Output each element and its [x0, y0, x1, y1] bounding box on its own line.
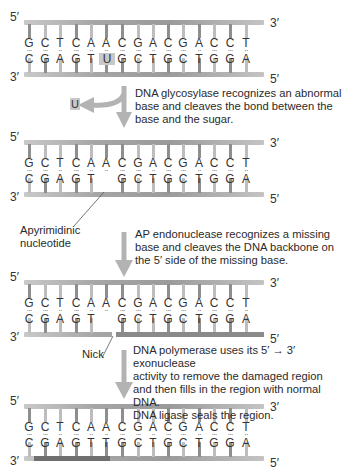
bottom-base: G: [223, 53, 237, 65]
bottom-base: G: [69, 173, 83, 185]
bottom-base: T: [146, 53, 160, 65]
bottom-base: G: [223, 437, 237, 449]
bottom-base: G: [38, 53, 52, 65]
bottom-base: G: [223, 313, 237, 325]
dna-helix-apyrimidinic: 5′3′3′5′G···CC···GT··AC···GA··TA··C···GG…: [0, 132, 347, 202]
bottom-base: T: [84, 437, 98, 449]
bottom-base: G: [38, 173, 52, 185]
step-2-caption: AP endonuclease recognizes a missing bas…: [135, 228, 334, 267]
bottom-base: C: [176, 437, 190, 449]
bottom-base: T: [146, 173, 160, 185]
bottom-base: G: [38, 313, 52, 325]
nick-label: Nick: [82, 348, 104, 361]
bottom-base: C: [22, 313, 36, 325]
bottom-base: G: [207, 437, 221, 449]
label-5prime-bottom: 5′: [270, 456, 279, 470]
label-5prime-top: 5′: [10, 10, 19, 24]
bottom-base: G: [115, 53, 129, 65]
bottom-base: C: [131, 313, 145, 325]
label-3prime-bottom: 3′: [10, 190, 19, 204]
bottom-base: G: [207, 313, 221, 325]
bottom-base: G: [161, 313, 175, 325]
bottom-base: C: [131, 437, 145, 449]
label-5prime-top: 5′: [10, 394, 19, 408]
bottom-base: G: [207, 53, 221, 65]
bottom-base: T: [84, 53, 98, 65]
removed-uracil-base: U: [70, 98, 80, 110]
label-5prime-bottom: 5′: [270, 192, 279, 206]
label-3prime-bottom: 3′: [10, 454, 19, 468]
label-3prime-top: 3′: [270, 136, 279, 150]
bottom-base: G: [38, 437, 52, 449]
bottom-base: A: [239, 313, 253, 325]
repaired-segment: [34, 456, 110, 461]
bottom-base: T: [146, 313, 160, 325]
uracil-base-highlighted: U: [99, 53, 115, 65]
bottom-base: T: [146, 437, 160, 449]
bottom-base: A: [53, 437, 67, 449]
label-3prime-top: 3′: [270, 276, 279, 290]
bottom-base: A: [53, 313, 67, 325]
bottom-base: A: [239, 437, 253, 449]
bottom-base: G: [161, 173, 175, 185]
label-3prime-bottom: 3′: [10, 70, 19, 84]
label-3prime-top: 3′: [270, 16, 279, 30]
bottom-base: A: [53, 173, 67, 185]
cleaved-strand-segment: [116, 332, 264, 337]
label-5prime-top: 5′: [10, 130, 19, 144]
bottom-base: T: [192, 173, 206, 185]
bottom-base: A: [239, 53, 253, 65]
bottom-base: G: [69, 437, 83, 449]
bottom-base: G: [161, 437, 175, 449]
bottom-base: G: [115, 437, 129, 449]
bottom-base: T: [192, 437, 206, 449]
bottom-base: G: [115, 173, 129, 185]
bottom-base: C: [176, 313, 190, 325]
hydrogen-bond-dots: ··: [99, 308, 113, 314]
bottom-base: G: [223, 173, 237, 185]
bottom-base: G: [115, 313, 129, 325]
dna-helix-nicked: 5′3′3′5′G···CC···GT··AC···GA··TA··C···GG…: [0, 272, 347, 342]
bottom-base: T: [84, 313, 98, 325]
bottom-base: G: [69, 53, 83, 65]
glycosylase-arrow-icon: [70, 84, 140, 130]
bottom-base: T: [84, 173, 98, 185]
polymerase-arrow-icon: [114, 350, 134, 400]
bottom-base: T: [192, 53, 206, 65]
bottom-base: C: [22, 53, 36, 65]
bottom-base: C: [22, 173, 36, 185]
bottom-base: A: [239, 173, 253, 185]
label-5prime-top: 5′: [10, 270, 19, 284]
bottom-base: C: [176, 173, 190, 185]
bottom-base: G: [69, 313, 83, 325]
bottom-base: T: [192, 313, 206, 325]
bottom-base: T: [99, 437, 113, 449]
hydrogen-bond-dots: ··: [99, 168, 113, 174]
bottom-base: C: [176, 53, 190, 65]
bottom-base: A: [53, 53, 67, 65]
endonuclease-arrow-icon: [114, 232, 134, 278]
bottom-base: C: [131, 173, 145, 185]
label-5prime-bottom: 5′: [270, 72, 279, 86]
apyrimidinic-label: Apyrimidinic nucleotide: [20, 224, 80, 250]
bottom-base: G: [207, 173, 221, 185]
dna-helix-original: 5′3′3′5′G···CC···GT··AC···GA··TA··UC···G…: [0, 12, 347, 82]
label-3prime-bottom: 3′: [10, 330, 19, 344]
bottom-base: C: [131, 53, 145, 65]
bottom-base: G: [161, 53, 175, 65]
step-1-caption: DNA glycosylase recognizes an abnormal b…: [135, 87, 341, 126]
bottom-base: C: [22, 437, 36, 449]
step-3-caption: DNA polymerase uses its 5′ → 3′ exonucle…: [133, 344, 347, 422]
